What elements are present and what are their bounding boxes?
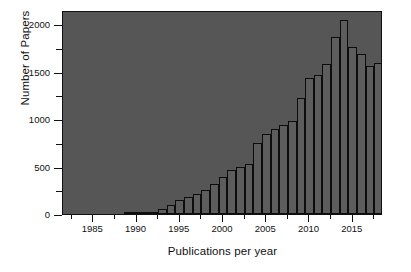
bar-series: [63, 12, 381, 214]
bar: [271, 129, 280, 214]
bar: [288, 121, 297, 214]
bar: [210, 184, 219, 214]
bar: [314, 75, 323, 214]
bar: [201, 190, 210, 214]
y-tick: [54, 120, 62, 121]
x-tick-minor: [244, 215, 245, 219]
y-tick-label: 500: [6, 162, 50, 173]
bar: [149, 212, 158, 214]
x-tick-minor: [330, 215, 331, 219]
bar: [124, 212, 133, 214]
bar: [305, 78, 314, 214]
y-tick: [54, 168, 62, 169]
y-tick: [54, 73, 62, 74]
bar: [297, 98, 306, 214]
plot-area: [62, 11, 382, 215]
bar: [331, 37, 340, 214]
y-tick-label: 2000: [6, 19, 50, 30]
bar: [262, 134, 271, 214]
x-tick-label: 2000: [199, 223, 245, 234]
bar: [366, 66, 375, 214]
x-tick-label: 1985: [69, 223, 115, 234]
x-tick-minor: [287, 215, 288, 219]
x-tick-minor: [157, 215, 158, 219]
bar: [245, 164, 254, 214]
bar: [175, 200, 184, 214]
x-tick: [265, 215, 266, 222]
y-tick-label: 1000: [6, 114, 50, 125]
bar: [279, 125, 288, 214]
x-tick-minor: [373, 215, 374, 219]
x-tick-label: 1995: [156, 223, 202, 234]
x-tick: [308, 215, 309, 222]
bar: [322, 64, 331, 214]
x-tick: [92, 215, 93, 222]
bar: [227, 170, 236, 214]
x-tick-label: 1990: [113, 223, 159, 234]
bar: [184, 197, 193, 214]
bar: [219, 177, 228, 214]
x-tick-label: 2015: [329, 223, 375, 234]
x-tick-minor: [200, 215, 201, 219]
bar: [141, 212, 150, 214]
y-tick: [54, 215, 62, 216]
bar: [158, 209, 167, 214]
x-tick: [179, 215, 180, 222]
bar: [167, 205, 176, 214]
y-tick: [54, 25, 62, 26]
x-axis-title: Publications per year: [62, 245, 383, 257]
x-tick-label: 2010: [285, 223, 331, 234]
x-tick: [136, 215, 137, 222]
x-tick-minor: [71, 215, 72, 219]
x-tick-label: 2005: [242, 223, 288, 234]
x-tick: [352, 215, 353, 222]
bar: [132, 212, 141, 214]
x-tick: [222, 215, 223, 222]
bar: [253, 143, 262, 214]
bar: [357, 54, 366, 214]
y-tick-label: 1500: [6, 67, 50, 78]
bar: [348, 47, 357, 214]
bar: [193, 194, 202, 214]
bar: [236, 167, 245, 214]
bar: [340, 20, 349, 214]
bar: [374, 63, 382, 214]
y-tick-label: 0: [6, 209, 50, 220]
x-tick-minor: [114, 215, 115, 219]
chart-figure: Number of Papers 0500100015002000 198519…: [0, 0, 411, 272]
